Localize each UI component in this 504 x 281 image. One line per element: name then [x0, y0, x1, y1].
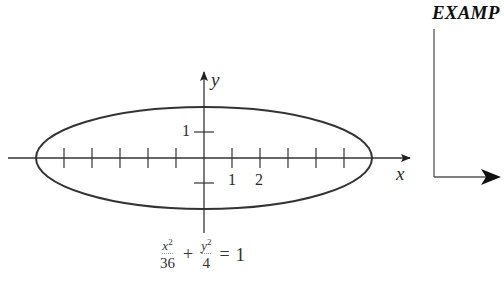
example-heading: EXAMP: [432, 2, 500, 24]
x-tick-label-1: 1: [228, 171, 236, 189]
x-axis-label: x: [396, 163, 404, 185]
fraction-y-numerator: y2: [201, 238, 211, 254]
ellipse-diagram: [0, 0, 504, 281]
equals-sign: =: [219, 244, 229, 265]
y-exponent: 2: [207, 237, 212, 247]
x-exponent: 2: [168, 237, 173, 247]
fraction-y-denominator: 4: [203, 254, 211, 271]
fraction-x: x2 36: [160, 238, 175, 271]
fraction-x-numerator: x2: [162, 238, 172, 254]
equation-rhs: 1: [236, 244, 246, 266]
x-tick-label-2: 2: [255, 171, 263, 189]
plus-sign: +: [183, 244, 193, 265]
y-tick-label-1: 1: [182, 122, 190, 140]
fraction-y: y2 4: [201, 238, 211, 271]
fraction-x-denominator: 36: [160, 254, 175, 271]
y-axis-label: y: [211, 69, 219, 91]
ellipse-equation: x2 36 + y2 4 = 1: [158, 238, 245, 271]
